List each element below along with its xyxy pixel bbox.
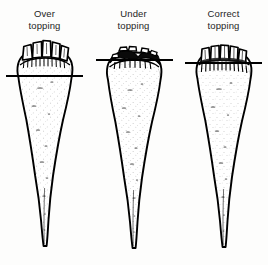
beet-root-body (179, 38, 268, 260)
caption-line-2: topping (89, 20, 178, 32)
caption-line-1: Under (120, 8, 146, 19)
panel-over-topping: Over topping (0, 0, 89, 265)
beet-root-body (0, 38, 89, 260)
drawing-over-topping (0, 38, 89, 260)
drawing-under-topping (89, 38, 178, 260)
drawing-correct-topping (179, 38, 268, 260)
caption-line-1: Over (34, 8, 55, 19)
caption-line-2: topping (0, 20, 89, 32)
beet-root-body (89, 38, 178, 260)
caption-under-topping: Under topping (89, 8, 178, 31)
caption-line-2: topping (179, 20, 268, 32)
caption-correct-topping: Correct topping (179, 8, 268, 31)
caption-line-1: Correct (208, 8, 240, 19)
caption-over-topping: Over topping (0, 8, 89, 31)
panel-correct-topping: Correct topping (179, 0, 268, 265)
beet-topping-figure: Over topping (0, 0, 268, 265)
panel-under-topping: Under topping (89, 0, 178, 265)
